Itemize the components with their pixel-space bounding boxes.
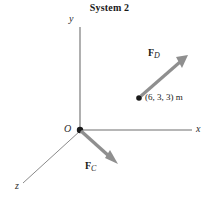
point-marker-6-3-3: [136, 95, 142, 101]
figure-canvas: System 2 y x z O FD FC (6, 3, 3) m: [0, 0, 219, 199]
force-fd-arrow: [141, 55, 188, 96]
y-axis-label: y: [69, 13, 73, 24]
force-fc-label: FC: [85, 160, 96, 173]
x-axis-label: x: [196, 123, 200, 134]
force-fd-label: FD: [148, 47, 160, 60]
coordinate-system-diagram: [0, 0, 219, 199]
force-fd-subscript: D: [154, 51, 160, 60]
force-fc-subscript: C: [91, 164, 96, 173]
point-coordinate-label: (6, 3, 3) m: [145, 92, 183, 102]
origin-label: O: [64, 123, 71, 134]
z-axis-label: z: [15, 180, 19, 191]
z-axis-line: [23, 131, 80, 183]
